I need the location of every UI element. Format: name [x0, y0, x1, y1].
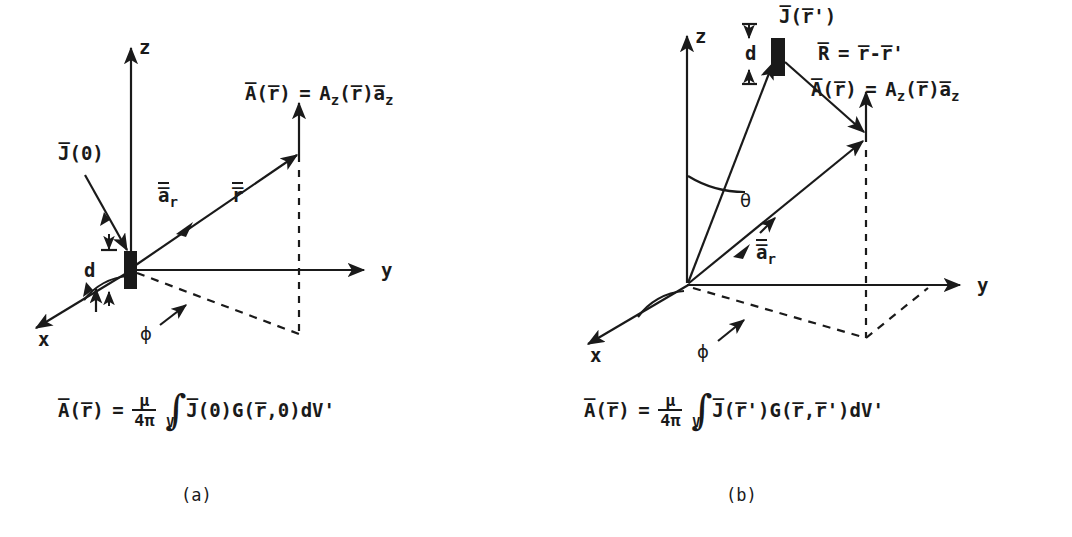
current-element-a — [124, 251, 137, 289]
potential-expression-a: A̅(r̅)=Az(r̅)a̅z — [245, 84, 394, 103]
position-vector-a — [133, 155, 297, 267]
axis-label-y-a: y — [381, 261, 392, 280]
panel-caption-b: (b) — [726, 487, 757, 504]
overbar-a-ar — [158, 182, 169, 184]
equation-a-lhs: A̅ — [58, 399, 69, 421]
potential-rhs-unit-a: a̅ — [374, 82, 385, 104]
equation-b-fraction-den: 4π — [658, 409, 682, 429]
source-leader-barb-a — [100, 212, 110, 226]
separation-rhs-b: r̅-r̅' — [858, 42, 904, 64]
equation-a-equals: = — [112, 399, 123, 421]
equation-a-fraction-num: μ — [132, 391, 156, 409]
equation-b-integral-limit: V — [692, 418, 700, 426]
potential-rhs-b: A — [885, 78, 896, 100]
equation-a: A̅(r̅)=μ4π∫VJ̅(0)G(r̅,0)dV' — [58, 392, 335, 430]
unit-radial-glyph-b: a̅ — [756, 241, 767, 263]
equation-a-fraction-den: 4π — [132, 409, 156, 429]
equation-b-fraction: μ4π — [658, 391, 682, 429]
potential-rhs-arg-a: (r̅) — [339, 82, 373, 104]
potential-rhs-a: A — [319, 82, 330, 104]
overbar-a-r — [232, 182, 243, 184]
axis-label-x-b: x — [590, 346, 601, 365]
unit-radial-sub-a: r — [169, 194, 177, 210]
equation-b-lhs-arg: (r̅) — [595, 399, 629, 421]
unit-radial-sub-b: r — [767, 251, 775, 267]
potential-rhs-unit-sub-a: z — [385, 92, 393, 108]
equation-b-fraction-num: μ — [658, 391, 682, 409]
equation-b-equals: = — [638, 399, 649, 421]
angle-phi-tick-proj-b — [718, 320, 744, 341]
element-length-label-a: d — [84, 261, 95, 280]
angle-phi-tick-proj-a — [160, 305, 186, 325]
potential-lhs-a: A̅ — [245, 82, 256, 104]
axis-label-z-a: z — [139, 38, 150, 57]
projection-xy-to-y-b — [866, 288, 928, 338]
overbar-b-ar — [756, 239, 767, 241]
angle-label-theta-b: θ — [740, 192, 751, 210]
equation-a-integrand: J̅(0)G(r̅,0)dV' — [186, 399, 335, 421]
potential-expression-b: A̅(r̅)=Az(r̅)a̅z — [811, 80, 960, 99]
equation-a-lhs-arg: (r̅) — [69, 399, 103, 421]
angle-phi-arc-b — [638, 291, 684, 317]
separation-lhs-b: R̅ — [818, 42, 829, 64]
angle-theta-arc-b — [688, 176, 745, 192]
equation-b-lhs: A̅ — [584, 399, 595, 421]
figure-root: z y x ϕ J̅(0) d a̅r r̅ A̅(r̅)=Az(r̅)a̅z … — [0, 0, 1072, 537]
unit-radial-glyph-a: a̅ — [158, 184, 169, 206]
unit-radial-marker-a — [176, 222, 193, 237]
potential-lhs-arg-b: (r̅) — [822, 78, 856, 100]
angle-label-phi-a: ϕ — [140, 325, 152, 343]
equation-b-integrand: J̅(r̅')G(r̅,r̅')dV' — [712, 399, 884, 421]
potential-lhs-arg-a: (r̅) — [256, 82, 290, 104]
source-label-b: J̅(r̅') — [779, 7, 836, 26]
current-element-b — [771, 38, 785, 76]
separation-expression-b: R̅=r̅-r̅' — [818, 44, 904, 63]
potential-rhs-sub-a: z — [331, 92, 339, 108]
potential-rhs-unit-b: a̅ — [940, 78, 951, 100]
potential-rhs-arg-b: (r̅) — [905, 78, 939, 100]
equation-a-integral-icon: ∫V — [165, 398, 186, 423]
projection-xy-b — [693, 288, 866, 338]
unit-radial-label-b: a̅r — [756, 243, 776, 262]
unit-radial-label-a: a̅r — [158, 186, 178, 205]
element-length-label-b: d — [745, 44, 756, 63]
angle-label-phi-b: ϕ — [697, 343, 709, 361]
equation-b-integral-icon: ∫V — [691, 398, 712, 423]
panel-caption-a: (a) — [181, 487, 212, 504]
source-leader-a — [85, 175, 127, 250]
potential-lhs-b: A̅ — [811, 78, 822, 100]
position-vector-glyph-a: r̅ — [232, 184, 243, 206]
source-label-a: J̅(0) — [58, 144, 104, 163]
separation-equals-b: = — [838, 42, 849, 64]
position-vector-label-a: r̅ — [232, 186, 243, 205]
potential-rhs-sub-b: z — [897, 88, 905, 104]
potential-equals-a: = — [299, 82, 310, 104]
equation-a-fraction: μ4π — [132, 391, 156, 429]
equation-b: A̅(r̅)=μ4π∫VJ̅(r̅')G(r̅,r̅')dV' — [584, 392, 884, 430]
axis-label-z-b: z — [695, 27, 706, 46]
axis-label-y-b: y — [977, 276, 988, 295]
equation-a-integral-limit: V — [166, 418, 174, 426]
potential-equals-b: = — [865, 78, 876, 100]
potential-rhs-unit-sub-b: z — [951, 88, 959, 104]
panel-b-artwork — [588, 24, 960, 344]
axis-label-x-a: x — [38, 330, 49, 349]
